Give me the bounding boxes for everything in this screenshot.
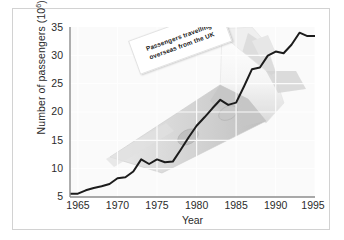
y-tick-10: 10: [37, 162, 63, 174]
y-axis-label-exponent: 6: [35, 4, 42, 8]
x-axis-label: Year: [70, 214, 315, 226]
y-tick-30: 30: [37, 49, 63, 61]
y-tick-15: 15: [37, 134, 63, 146]
x-tick-1975: 1975: [137, 199, 177, 211]
x-tick-1970: 1970: [98, 199, 138, 211]
x-tick-1980: 1980: [177, 199, 217, 211]
plot-area: Passengers travelling overseas from the …: [70, 27, 315, 197]
y-tick-35: 35: [37, 21, 63, 33]
figure-container: Number of passengers (106) 35 30 25 20 1…: [12, 8, 330, 230]
y-tick-20: 20: [37, 105, 63, 117]
x-tick-1995: 1995: [293, 199, 333, 211]
x-tick-1990: 1990: [256, 199, 296, 211]
x-tick-1985: 1985: [216, 199, 256, 211]
y-tick-25: 25: [37, 77, 63, 89]
y-axis-label-suffix: ): [35, 0, 47, 4]
x-tick-1965: 1965: [58, 199, 98, 211]
